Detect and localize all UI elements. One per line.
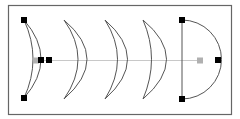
halfdisc-right-handle[interactable] — [215, 57, 221, 63]
crescent-inner-handle[interactable] — [38, 57, 44, 63]
crescent-top-handle[interactable] — [21, 17, 27, 23]
crescent-outer-handle[interactable] — [46, 57, 52, 63]
diagram-canvas — [0, 0, 240, 119]
crescent-bottom-handle[interactable] — [21, 95, 27, 101]
end-anchor-icon[interactable] — [197, 58, 203, 64]
halfdisc-bottom-handle[interactable] — [179, 96, 185, 102]
halfdisc-top-handle[interactable] — [179, 17, 185, 23]
